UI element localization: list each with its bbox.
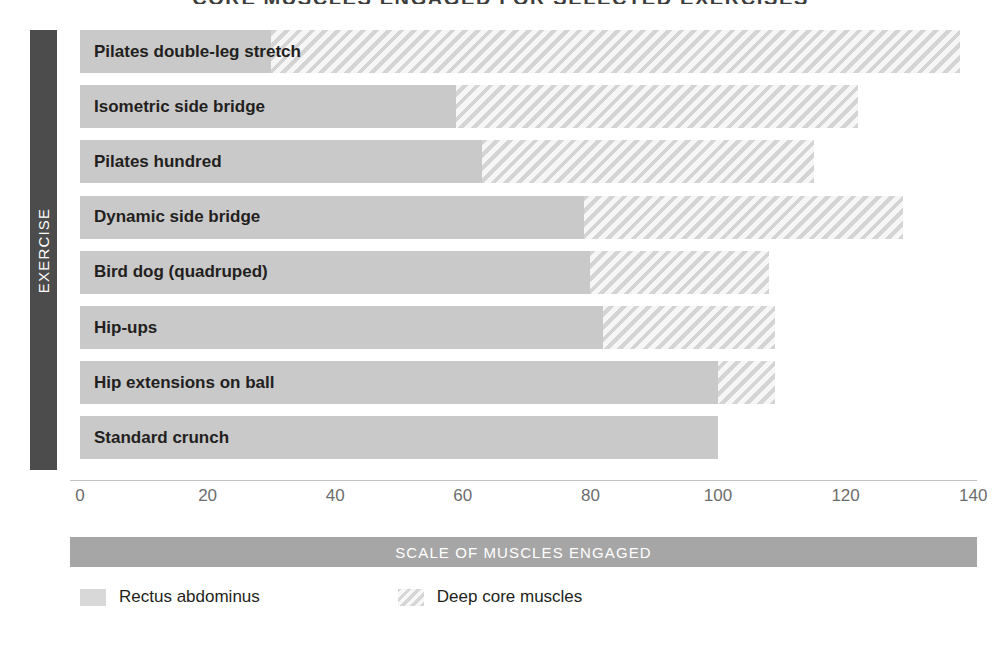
x-axis-tick-60: 60 [453,486,472,506]
bar-row: Standard crunch [80,416,718,459]
bar-row: Isometric side bridge [80,85,858,128]
bar-row: Bird dog (quadruped) [80,251,769,294]
bar-category-label: Pilates double-leg stretch [94,30,301,73]
bar-category-label: Hip extensions on ball [94,361,274,404]
chart-title: CORE MUSCLES ENGAGED FOR SELECTED EXERCI… [0,0,1001,4]
legend-swatch-icon [80,589,106,606]
bar-segment-deep-core-muscles[interactable] [482,140,814,183]
bar-segment-deep-core-muscles[interactable] [271,30,960,73]
x-axis-tick-120: 120 [831,486,859,506]
x-axis-title-bar: SCALE OF MUSCLES ENGAGED [70,537,977,567]
bar-category-label: Pilates hundred [94,140,222,183]
bar-category-label: Hip-ups [94,306,157,349]
bar-segment-deep-core-muscles[interactable] [603,306,775,349]
bar-segment-deep-core-muscles[interactable] [584,196,903,239]
x-axis-tick-80: 80 [581,486,600,506]
x-axis-tick-0: 0 [75,486,84,506]
legend-label: Rectus abdominus [119,587,260,607]
legend-item[interactable]: Deep core muscles [398,587,583,607]
bar-segment-deep-core-muscles[interactable] [590,251,769,294]
legend-item[interactable]: Rectus abdominus [80,587,260,607]
bar-row: Pilates double-leg stretch [80,30,960,73]
x-axis-tick-40: 40 [326,486,345,506]
bar-row: Pilates hundred [80,140,814,183]
bar-segment-deep-core-muscles[interactable] [456,85,858,128]
bar-segment-deep-core-muscles[interactable] [718,361,775,404]
y-axis-title: EXERCISE [30,30,57,470]
x-axis-tick-100: 100 [704,486,732,506]
y-axis-title-text: EXERCISE [35,207,52,292]
legend-label: Deep core muscles [437,587,583,607]
plot-area: Pilates double-leg stretchIsometric side… [80,30,975,475]
bar-segment-rectus-abdominus[interactable] [80,306,603,349]
x-axis-title-text: SCALE OF MUSCLES ENGAGED [395,544,651,561]
chart-legend: Rectus abdominusDeep core muscles [80,583,624,611]
x-axis-tick-140: 140 [959,486,987,506]
bar-row: Dynamic side bridge [80,196,903,239]
bar-category-label: Standard crunch [94,416,229,459]
x-axis-tick-20: 20 [198,486,217,506]
x-axis-tick-labels: 020406080100120140 [0,486,1001,512]
bar-row: Hip-ups [80,306,775,349]
bar-category-label: Bird dog (quadruped) [94,251,268,294]
bar-category-label: Isometric side bridge [94,85,265,128]
x-axis-line [70,480,977,481]
bar-row: Hip extensions on ball [80,361,775,404]
legend-swatch-icon [398,589,424,606]
bar-category-label: Dynamic side bridge [94,196,260,239]
